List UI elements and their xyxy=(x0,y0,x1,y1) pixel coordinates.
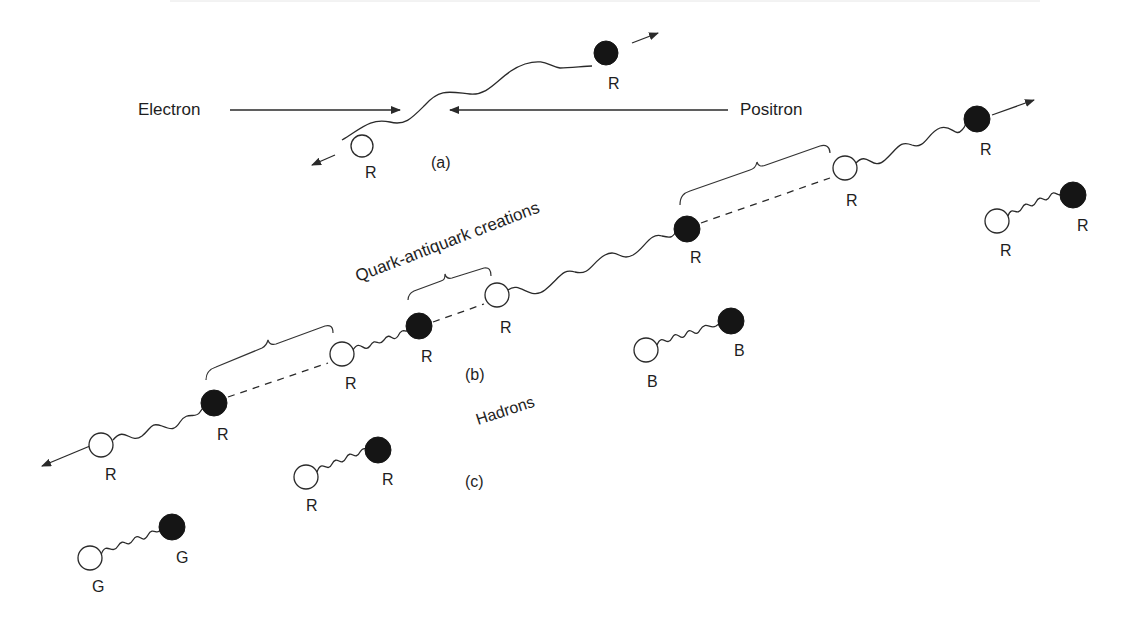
hadron-string xyxy=(657,322,722,345)
panel-c: Hadrons (c) G G R R B B xyxy=(78,182,1089,595)
color-label: R xyxy=(306,497,318,514)
quark-antiquark-creations-label: Quark-antiquark creations xyxy=(353,198,542,286)
panel-b: Quark-antiquark creations R R R R R R xyxy=(42,100,1034,483)
antiquark xyxy=(985,209,1009,233)
dashed-gap-1 xyxy=(228,363,328,397)
quark-3 xyxy=(674,216,700,242)
color-label: R xyxy=(382,471,394,488)
antiquark-3 xyxy=(485,283,509,307)
string-segment-3 xyxy=(508,232,676,294)
quark xyxy=(365,437,391,463)
electron-label: Electron xyxy=(138,100,200,119)
hadron-string xyxy=(1008,193,1062,216)
antiquark xyxy=(634,338,658,362)
hadron-string xyxy=(101,530,160,555)
antiquark-4 xyxy=(833,156,857,180)
quark-1 xyxy=(201,390,227,416)
quark-color-label: R xyxy=(608,75,620,92)
color-label: R xyxy=(1000,242,1012,259)
color-label: R xyxy=(105,466,117,483)
hadron-blue: B B xyxy=(634,308,745,390)
color-label: R xyxy=(846,192,858,209)
brace-1 xyxy=(206,326,333,380)
quark-motion-arrow xyxy=(632,33,658,43)
panel-b-label: (b) xyxy=(465,366,485,383)
left-motion-arrow xyxy=(42,446,90,466)
antiquark-1 xyxy=(89,433,113,457)
panel-a: Electron Positron R R (a) xyxy=(138,33,802,181)
hadron-string xyxy=(317,448,368,472)
antiquark xyxy=(78,546,102,570)
panel-a-label: (a) xyxy=(431,154,451,171)
antiquark-2 xyxy=(330,342,354,366)
antiquark-motion-arrow xyxy=(312,155,335,165)
color-label: R xyxy=(1077,217,1089,234)
antiquark xyxy=(294,465,318,489)
quark-circle xyxy=(594,41,618,65)
brace-2 xyxy=(408,268,491,300)
dashed-gap-2 xyxy=(433,304,484,322)
string-segment-1 xyxy=(113,405,208,440)
color-string xyxy=(342,62,592,140)
color-label: B xyxy=(647,373,658,390)
quark xyxy=(159,514,185,540)
color-label: R xyxy=(421,348,433,365)
antiquark-color-label: R xyxy=(365,164,377,181)
antiquark-circle xyxy=(351,135,373,157)
dashed-gap-3 xyxy=(701,178,830,223)
quark xyxy=(718,308,744,334)
color-label: R xyxy=(345,375,357,392)
diagram-canvas: Electron Positron R R (a) Quark-antiquar… xyxy=(0,0,1131,631)
quark-2 xyxy=(406,313,432,339)
color-label: G xyxy=(92,578,104,595)
string-segment-4 xyxy=(856,121,966,164)
quark xyxy=(1060,182,1086,208)
right-motion-arrow xyxy=(992,100,1034,115)
hadron-red-2: R R xyxy=(985,182,1089,259)
color-label: B xyxy=(734,342,745,359)
color-label: R xyxy=(980,141,992,158)
string-segment-2 xyxy=(353,330,408,350)
brace-3 xyxy=(680,145,830,205)
hadron-red-1: R R xyxy=(294,437,394,514)
positron-label: Positron xyxy=(740,100,802,119)
color-label: G xyxy=(176,549,188,566)
hadrons-label: Hadrons xyxy=(474,393,537,428)
panel-c-label: (c) xyxy=(465,473,484,490)
color-label: R xyxy=(500,319,512,336)
quark-4 xyxy=(964,106,990,132)
quark-hadronization-diagram: Electron Positron R R (a) Quark-antiquar… xyxy=(0,0,1131,631)
color-label: R xyxy=(690,249,702,266)
hadron-green: G G xyxy=(78,514,188,595)
color-label: R xyxy=(217,426,229,443)
